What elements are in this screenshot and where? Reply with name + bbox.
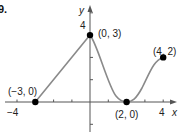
y-axis-arrow-icon (88, 5, 93, 12)
function-graph: 9. y x 4 −4 4 (−3, 0) (0, 3) (2, (0, 0, 183, 136)
x-axis-label: x (171, 107, 178, 118)
point-2-0 (123, 99, 129, 105)
function-curve (35, 35, 163, 102)
y-axis-label: y (78, 5, 85, 16)
point-label-neg3-0: (−3, 0) (8, 86, 37, 97)
x-tick-label-4: 4 (159, 107, 165, 118)
x-axis (5, 100, 177, 105)
x-tick-label-neg4: −4 (7, 107, 19, 118)
point-label-0-3: (0, 3) (98, 28, 121, 39)
x-axis-arrow-icon (170, 100, 177, 105)
problem-number: 9. (0, 3, 7, 15)
y-tick-label-4: 4 (80, 20, 86, 31)
point-label-2-0: (2, 0) (115, 109, 138, 120)
point-label-4-2: (4, 2) (153, 46, 176, 57)
y-axis (88, 5, 94, 132)
point-neg3-0 (32, 99, 38, 105)
point-0-3 (87, 32, 93, 38)
